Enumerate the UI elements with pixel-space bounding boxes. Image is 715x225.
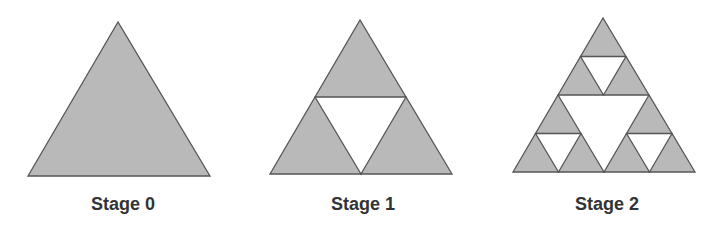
filled-triangle bbox=[558, 57, 604, 96]
filled-triangle bbox=[536, 95, 582, 134]
filled-triangle bbox=[559, 134, 605, 173]
filled-triangle bbox=[28, 22, 210, 176]
filled-triangle bbox=[581, 18, 627, 57]
stage-2-triangle bbox=[513, 18, 695, 172]
sierpinski-diagram bbox=[0, 0, 715, 225]
stage-1-label: Stage 1 bbox=[283, 194, 443, 215]
filled-triangle bbox=[604, 134, 650, 173]
stage-1-triangle bbox=[270, 20, 452, 174]
filled-triangle bbox=[361, 97, 452, 174]
filled-triangle bbox=[513, 134, 559, 173]
stage-0-label: Stage 0 bbox=[43, 194, 203, 215]
filled-triangle bbox=[650, 134, 696, 173]
stage-2-label: Stage 2 bbox=[527, 194, 687, 215]
stage-0-triangle bbox=[28, 22, 210, 176]
filled-triangle bbox=[270, 97, 361, 174]
filled-triangle bbox=[627, 95, 673, 134]
filled-triangle bbox=[315, 20, 406, 97]
filled-triangle bbox=[604, 57, 650, 96]
